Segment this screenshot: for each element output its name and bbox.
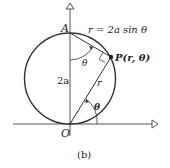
x-axis-arrow-icon: [152, 120, 158, 128]
right-angle-marker: [99, 53, 105, 63]
diagram-canvas: A r = 2a sin θ P(r, θ) θ 2a r θ O (b): [0, 0, 170, 168]
equation-label: r = 2a sin θ: [88, 24, 147, 35]
y-axis-arrow-icon: [66, 3, 74, 9]
radius-label: r: [97, 77, 103, 88]
angle-label-bottom: θ: [94, 102, 100, 112]
diameter-label: 2a: [57, 75, 69, 86]
radius-op: [70, 57, 111, 124]
point-p: [109, 55, 113, 59]
label-a: A: [60, 22, 69, 35]
label-o: O: [61, 127, 70, 140]
polar-circle-diagram: A r = 2a sin θ P(r, θ) θ 2a r θ O (b): [0, 0, 170, 168]
point-p-label: P(r, θ): [114, 52, 150, 64]
chord-ap: [70, 33, 111, 57]
angle-label-top: θ: [82, 58, 88, 68]
caption: (b): [77, 149, 91, 160]
